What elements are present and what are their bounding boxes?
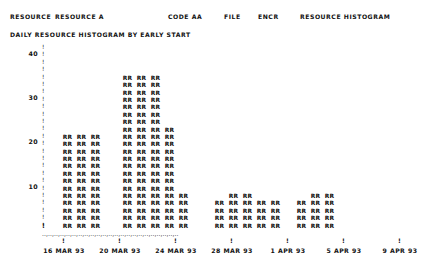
bar-cell: RR: [122, 163, 133, 170]
bar-cell: RR: [178, 208, 189, 215]
bar-cell: RR: [324, 193, 335, 200]
bar-cell: RR: [76, 200, 87, 207]
x-axis-line: ..,..,..,..,..,..,..,..,..,..,..,..,..,.…: [42, 230, 417, 237]
bar-cell: RR: [164, 193, 175, 200]
histogram-bar: RRRRRRRRRR: [324, 193, 335, 230]
bar-cell: RR: [122, 215, 133, 222]
bar-cell: RR: [136, 178, 147, 185]
bar-cell: RR: [62, 208, 73, 215]
histogram-bar: RRRRRRRR: [296, 200, 307, 230]
histogram-bar: RRRRRRRR: [270, 200, 281, 230]
bar-cell: RR: [164, 163, 175, 170]
histogram-bar: RRRRRRRRRRRRRRRRRRRRRRRRRRRRRRRRRRRRRRRR…: [150, 75, 161, 230]
bar-cell: RR: [324, 223, 335, 230]
bar-cell: RR: [90, 134, 101, 141]
bar-cell: RR: [90, 208, 101, 215]
bar-cell: RR: [62, 223, 73, 230]
bar-cell: RR: [136, 141, 147, 148]
bar-cell: RR: [76, 223, 87, 230]
bar-cell: RR: [228, 193, 239, 200]
bar-cell: RR: [164, 208, 175, 215]
bar-cell: RR: [164, 127, 175, 134]
x-axis-label: 9 APR 93: [383, 247, 418, 254]
bar-cell: RR: [270, 200, 281, 207]
bar-cell: RR: [90, 200, 101, 207]
bar-cell: RR: [242, 215, 253, 222]
bar-cell: RR: [324, 200, 335, 207]
bar-cell: RR: [150, 127, 161, 134]
bar-cell: RR: [122, 104, 133, 111]
bar-cell: RR: [122, 208, 133, 215]
bar-cell: RR: [122, 200, 133, 207]
bar-cell: RR: [76, 141, 87, 148]
bar-cell: RR: [214, 215, 225, 222]
x-axis: ..,..,..,..,..,..,..,..,..,..,..,..,..,.…: [0, 230, 427, 240]
bar-cell: RR: [122, 223, 133, 230]
x-axis-tick: !: [398, 238, 401, 244]
bar-cell: RR: [164, 186, 175, 193]
bar-cell: RR: [122, 186, 133, 193]
bar-cell: RR: [76, 163, 87, 170]
bar-cell: RR: [256, 215, 267, 222]
bar-cell: RR: [76, 186, 87, 193]
bar-cell: RR: [310, 208, 321, 215]
report-title: RESOURCE HISTOGRAM: [300, 13, 390, 20]
bar-cell: RR: [136, 134, 147, 141]
bar-cell: RR: [256, 208, 267, 215]
bar-cell: RR: [136, 75, 147, 82]
bar-cell: RR: [122, 75, 133, 82]
bar-cell: RR: [122, 112, 133, 119]
bar-cell: RR: [76, 215, 87, 222]
histogram-bar: RRRRRRRR: [214, 200, 225, 230]
bar-cell: RR: [76, 208, 87, 215]
bar-cell: RR: [136, 112, 147, 119]
histogram-bar: RRRRRRRRRRRRRRRRRRRRRRRRRRRR: [164, 127, 175, 230]
bar-cell: RR: [256, 223, 267, 230]
bar-cell: RR: [324, 215, 335, 222]
bar-cell: RR: [62, 141, 73, 148]
bar-cell: RR: [270, 215, 281, 222]
bar-cell: RR: [150, 119, 161, 126]
bar-cell: RR: [150, 163, 161, 170]
bar-cell: RR: [150, 223, 161, 230]
bar-cell: RR: [228, 208, 239, 215]
x-axis-tick: !: [286, 238, 289, 244]
axis-origin-mark: !: [42, 222, 45, 230]
bar-cell: RR: [214, 223, 225, 230]
histogram-bar: RRRRRRRR: [256, 200, 267, 230]
bar-cell: RR: [178, 223, 189, 230]
bar-cell: RR: [164, 200, 175, 207]
x-axis-tick: !: [174, 238, 177, 244]
header-resource-value: RESOURCE A: [55, 13, 104, 20]
histogram-bar: RRRRRRRRRRRRRRRRRRRRRRRRRRRRRRRRRRRRRRRR…: [122, 75, 133, 230]
bar-cell: RR: [178, 215, 189, 222]
bar-cell: RR: [122, 171, 133, 178]
bar-cell: RR: [90, 171, 101, 178]
bar-cell: RR: [122, 90, 133, 97]
bar-cell: RR: [310, 223, 321, 230]
bar-cell: RR: [136, 90, 147, 97]
header-encr-field: ENCR: [258, 13, 279, 20]
header-code-field: CODE AA: [168, 13, 202, 20]
bar-cell: RR: [310, 193, 321, 200]
histogram-bar: RRRRRRRRRR: [242, 193, 253, 230]
bar-cell: RR: [242, 223, 253, 230]
bar-cell: RR: [62, 186, 73, 193]
bar-cell: RR: [296, 208, 307, 215]
histogram-bar: RRRRRRRRRRRRRRRRRRRRRRRRRR: [76, 134, 87, 230]
bar-cell: RR: [62, 156, 73, 163]
bar-cell: RR: [164, 149, 175, 156]
bar-cell: RR: [150, 104, 161, 111]
bar-cell: RR: [90, 156, 101, 163]
report-page: RESOURCE RESOURCE A CODE AA FILE ENCR RE…: [0, 0, 427, 266]
bar-cell: RR: [136, 127, 147, 134]
bar-cell: RR: [122, 127, 133, 134]
bar-cell: RR: [76, 193, 87, 200]
bar-cell: RR: [136, 104, 147, 111]
bar-cell: RR: [178, 193, 189, 200]
bar-cell: RR: [256, 200, 267, 207]
bar-cell: RR: [122, 82, 133, 89]
bar-cell: RR: [150, 75, 161, 82]
bar-cell: RR: [228, 200, 239, 207]
bar-cell: RR: [324, 208, 335, 215]
